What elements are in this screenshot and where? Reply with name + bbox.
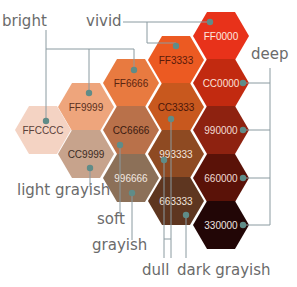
hexagon-663333: 663333 xyxy=(148,177,204,225)
hex-code-label: 660000 xyxy=(204,173,238,184)
hex-code-label: FF0000 xyxy=(204,31,239,42)
category-label-soft: soft xyxy=(97,210,125,228)
hexagon-ff0000: FF0000 xyxy=(193,12,249,60)
connector-dot-icon xyxy=(207,19,213,25)
category-label-deep: deep xyxy=(251,45,289,63)
connector-dot-icon xyxy=(87,165,93,171)
hexagon-cc3333: CC3333 xyxy=(148,83,204,131)
hex-code-label: 996666 xyxy=(114,173,148,184)
connector-dot-icon xyxy=(168,116,174,122)
category-label-light-grayish: light grayish xyxy=(17,181,110,199)
hex-code-label: CC0000 xyxy=(203,78,240,89)
category-label-vivid: vivid xyxy=(86,12,122,30)
connector-dot-icon xyxy=(117,142,123,148)
hexagon-ff6666: FF6666 xyxy=(103,59,159,107)
hex-code-label: CC9999 xyxy=(68,149,105,160)
connector-dot-icon xyxy=(183,212,189,218)
hexagon-993333: 993333 xyxy=(148,130,204,178)
color-tone-hexagon-diagram: FF0000FF3333FF6666FF9999FFCCCCCC0000CC33… xyxy=(0,0,297,287)
connector-dot-icon xyxy=(240,175,246,181)
connector-dot-icon xyxy=(86,90,92,96)
connector-dot-icon xyxy=(240,222,246,228)
connector-dot-icon xyxy=(240,127,246,133)
connector-dot-icon xyxy=(129,190,135,196)
hex-code-label: CC3333 xyxy=(158,102,195,113)
category-label-grayish: grayish xyxy=(92,236,147,254)
category-label-dull: dull xyxy=(142,261,169,279)
hexagon-cc6666: CC6666 xyxy=(103,106,159,154)
connector-dot-icon xyxy=(161,157,167,163)
vivid-connector xyxy=(123,22,176,47)
hex-code-label: FFCCCC xyxy=(22,125,63,136)
category-label-bright: bright xyxy=(2,12,47,30)
hex-code-label: CC6666 xyxy=(113,125,150,136)
hex-code-label: FF9999 xyxy=(69,102,104,113)
category-label-dark-grayish: dark grayish xyxy=(177,261,271,279)
hex-code-label: 990000 xyxy=(204,125,238,136)
connector-dot-icon xyxy=(43,118,49,124)
hex-code-label: FF3333 xyxy=(159,55,194,66)
connector-dot-icon xyxy=(240,80,246,86)
connector-dot-icon xyxy=(173,43,179,49)
connector-dot-icon xyxy=(131,67,137,73)
hex-code-label: 330000 xyxy=(204,220,238,231)
hex-code-label: FF6666 xyxy=(114,78,149,89)
